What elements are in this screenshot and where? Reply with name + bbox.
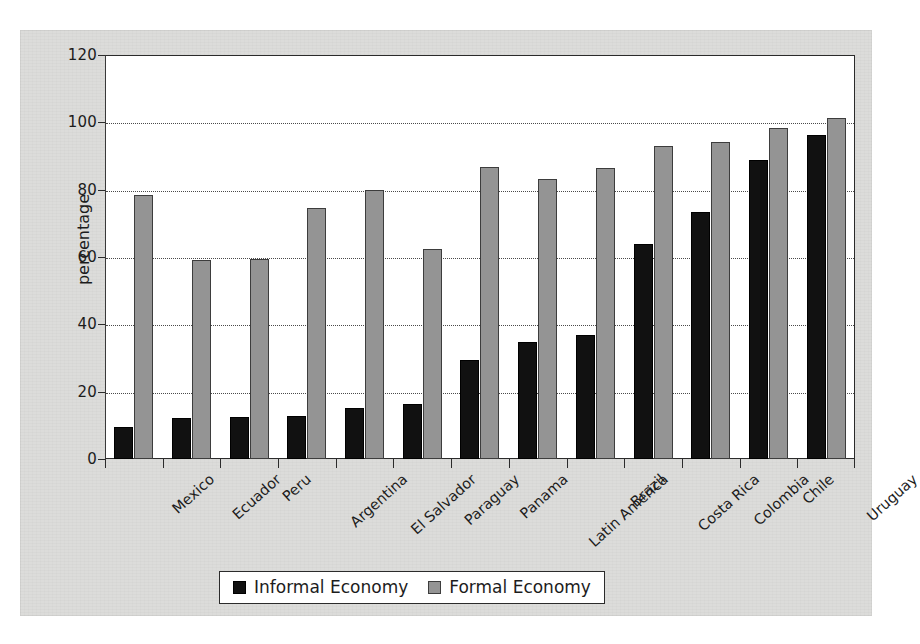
x-label-ecuador: Ecuador [229,471,284,523]
legend-entry-informal[interactable]: Informal Economy [233,577,408,597]
x-tick-mark-9 [624,459,625,468]
x-label-argentina: Argentina [347,471,410,530]
x-tick-mark-13 [854,459,855,468]
x-tick-mark-3 [278,459,279,468]
bar-costa-rica-informal[interactable] [634,244,653,459]
bar-peru-formal[interactable] [250,259,269,459]
bar-uruguay-formal[interactable] [827,118,846,459]
bars-layer [105,55,855,459]
bar-panama-formal[interactable] [480,167,499,459]
bar-group [740,55,798,459]
x-tick-mark-0 [105,459,106,468]
y-tick-label-0: 0 [87,450,97,468]
y-tick-mark-60 [98,257,105,258]
bar-mexico-informal[interactable] [114,427,133,459]
bar-group [624,55,682,459]
x-tick-mark-4 [336,459,337,468]
x-tick-mark-2 [220,459,221,468]
bar-group [451,55,509,459]
y-axis-tick-labels: 020406080100120 [38,55,97,459]
bar-latin-america-informal[interactable] [518,342,537,459]
bar-group [105,55,163,459]
x-tick-mark-8 [567,459,568,468]
bar-el-salvador-formal[interactable] [365,190,384,459]
x-tick-mark-6 [451,459,452,468]
y-tick-mark-80 [98,190,105,191]
bar-mexico-formal[interactable] [134,195,153,459]
bar-el-salvador-informal[interactable] [345,408,364,460]
bar-brazil-formal[interactable] [596,168,615,459]
bar-group [682,55,740,459]
bar-ecuador-informal[interactable] [172,418,191,459]
y-tick-mark-120 [98,55,105,56]
y-tick-mark-0 [98,459,105,460]
legend-swatch-icon [428,581,441,594]
y-tick-label-60: 60 [78,248,98,266]
y-tick-mark-40 [98,324,105,325]
legend-label: Formal Economy [449,577,591,597]
y-tick-label-80: 80 [78,181,98,199]
x-label-panama: Panama [517,471,571,522]
x-label-peru: Peru [280,471,315,505]
y-tick-mark-20 [98,392,105,393]
bar-paraguay-informal[interactable] [403,404,422,459]
legend-entry-formal[interactable]: Formal Economy [428,577,591,597]
bar-group [278,55,336,459]
x-label-el-salvador: El Salvador [408,471,479,537]
y-tick-label-100: 100 [68,113,97,131]
bar-uruguay-informal[interactable] [807,135,826,459]
bar-group [336,55,394,459]
y-tick-mark-100 [98,122,105,123]
y-tick-label-120: 120 [68,46,97,64]
bar-chile-informal[interactable] [749,160,768,459]
x-label-costa-rica: Costa Rica [695,471,763,534]
bar-panama-informal[interactable] [460,360,479,459]
bar-colombia-formal[interactable] [711,142,730,459]
bar-group [393,55,451,459]
x-axis-ticks [105,459,855,469]
x-label-mexico: Mexico [169,471,217,517]
bar-colombia-informal[interactable] [691,212,710,459]
bar-latin-america-formal[interactable] [538,179,557,459]
x-tick-mark-7 [509,459,510,468]
x-axis-tick-labels: MexicoEcuadorPeruArgentinaEl SalvadorPar… [105,471,865,581]
x-tick-mark-5 [393,459,394,468]
bar-group [797,55,855,459]
bar-brazil-informal[interactable] [576,335,595,459]
bar-chile-formal[interactable] [769,128,788,459]
bar-paraguay-formal[interactable] [423,249,442,459]
bar-group [509,55,567,459]
bar-group [220,55,278,459]
bar-group [163,55,221,459]
bar-argentina-formal[interactable] [307,208,326,459]
bar-peru-informal[interactable] [230,417,249,459]
bar-argentina-informal[interactable] [287,416,306,459]
chart-legend: Informal EconomyFormal Economy [219,571,605,604]
x-label-uruguay: Uruguay [864,471,920,524]
x-tick-mark-1 [163,459,164,468]
bar-group [567,55,625,459]
x-tick-mark-11 [740,459,741,468]
x-tick-mark-12 [797,459,798,468]
y-tick-label-40: 40 [78,315,98,333]
legend-swatch-icon [233,581,246,594]
x-tick-mark-10 [682,459,683,468]
bar-costa-rica-formal[interactable] [654,146,673,459]
legend-label: Informal Economy [254,577,408,597]
figure-panel: percentage 020406080100120 MexicoEcuador… [20,30,872,616]
y-tick-label-20: 20 [78,383,98,401]
bar-ecuador-formal[interactable] [192,260,211,459]
